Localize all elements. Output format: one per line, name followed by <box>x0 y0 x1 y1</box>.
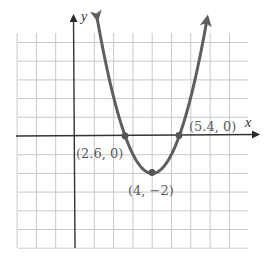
y-axis-label: y <box>79 9 88 24</box>
y-axis <box>74 16 76 248</box>
x-axis-label: x <box>244 115 252 130</box>
vertex-point <box>149 169 156 176</box>
left-intercept-point <box>122 133 129 140</box>
parabola-graph: y x (5.4, 0) (2.6, 0) (4, −2) <box>0 0 268 260</box>
vertex-label: (4, −2) <box>128 183 174 198</box>
right-intercept-label: (5.4, 0) <box>189 119 236 134</box>
right-intercept-point <box>176 132 183 139</box>
left-intercept-label: (2.6, 0) <box>76 146 123 161</box>
grid-lines <box>17 33 248 248</box>
x-axis <box>16 135 258 137</box>
